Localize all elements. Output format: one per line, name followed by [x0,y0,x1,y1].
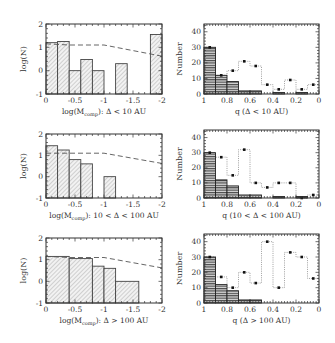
y-tick-label: 10 [191,283,201,292]
data-point [300,88,303,91]
x-tick-label: -1 [100,96,107,105]
x-tick-label: 0.4 [267,96,279,105]
histogram-bar [104,268,116,303]
y-tick-label: 2 [38,20,43,29]
y-tick-label: -1 [36,90,43,99]
data-point [208,46,211,49]
data-point [243,271,246,274]
data-point [312,277,315,280]
histogram-bar [92,266,104,303]
histogram-bar [116,281,139,303]
x-tick-label: -1 [100,305,107,314]
y-tick-label: -1 [36,299,43,308]
x-axis-label: q (Δ < 10 AU) [235,107,288,116]
x-tick-label: 0 [44,200,49,209]
y-tick-label: 2 [38,130,43,139]
x-tick-label: 1 [202,200,207,209]
y-tick-label: 40 [191,27,201,36]
y-tick-label: 30 [191,148,201,157]
x-tick-label: 0 [317,96,322,105]
histogram-bar [81,59,93,94]
y-tick-label: 30 [191,43,201,52]
x-tick-label: 0.2 [290,305,302,314]
chart-panel-row3-right: 10.80.60.40.20010203040Numberq (Δ > 100 … [175,234,322,325]
x-axis-label: q (10 < Δ < 100 AU) [222,211,301,220]
x-tick-label: 0 [317,305,322,314]
x-tick-label: 0 [317,200,322,209]
x-tick-label: 0.4 [267,305,279,314]
data-point [254,182,257,185]
histogram-bar [116,64,128,94]
data-point [243,148,246,151]
y-tick-label: 1 [38,151,43,160]
y-axis-label: Number [175,252,184,286]
y-tick-label: 30 [191,253,201,262]
x-tick-label: 0.8 [221,96,233,105]
filled-histogram-bar [204,47,216,94]
y-tick-label: 1 [38,43,43,52]
x-tick-label: -0.5 [68,305,83,314]
filled-histogram-bar [216,285,228,303]
filled-histogram-bar [216,75,228,94]
y-axis-label: log(N) [19,258,28,284]
data-point [277,286,280,289]
data-point [277,88,280,91]
x-tick-label: -0.5 [68,96,83,105]
x-tick-label: 0.6 [244,96,256,105]
y-tick-label: 0 [38,66,43,75]
data-point [300,256,303,259]
y-axis-label: log(N) [19,153,28,179]
histogram-bar [104,177,116,198]
histogram-bar [58,150,70,198]
x-tick-label: -1.5 [126,200,141,209]
x-tick-label: 0.6 [244,305,256,314]
x-tick-label: -0.5 [68,200,83,209]
y-tick-label: 40 [191,237,201,246]
chart-panel-row1-left: 0-0.5-1-1.5-2-1012log(N)log(Mcomp): Δ < … [19,20,166,119]
y-tick-label: 0 [196,194,201,203]
x-axis-label: log(Mcomp): Δ > 100 AU [60,316,149,327]
data-point [231,286,234,289]
chart-panel-row1-right: 10.80.60.40.20010203040Numberq (Δ < 10 A… [175,24,322,116]
y-tick-label: 20 [191,268,201,277]
x-tick-label: 0.4 [267,200,279,209]
data-point [231,174,234,177]
x-axis-label: log(Mcomp): Δ < 10 AU [62,107,146,118]
filled-histogram-bar [204,153,216,198]
histogram-bar [69,160,81,198]
x-tick-label: -1.5 [126,96,141,105]
x-tick-label: 0.2 [290,96,302,105]
histogram-bar [150,35,162,95]
y-tick-label: 10 [191,178,201,187]
x-axis-label: log(Mcomp): 10 < Δ < 100 AU [49,211,158,222]
data-point [220,156,223,159]
data-point [289,251,292,254]
data-point [289,182,292,185]
data-point [266,240,269,243]
data-point [208,151,211,154]
x-axis-label: q (Δ > 100 AU) [233,316,291,325]
chart-panel-row2-left: 0-0.5-1-1.5-2-1012log(N)log(Mcomp): 10 <… [19,130,166,223]
y-axis-label: log(N) [19,46,28,72]
y-tick-label: 20 [191,163,201,172]
data-point [243,60,246,63]
x-tick-label: -2 [158,305,166,314]
y-tick-label: -1 [36,194,43,203]
histogram-bar [81,164,93,198]
y-tick-label: 20 [191,58,201,67]
y-tick-label: 10 [191,74,201,83]
filled-histogram-bar [204,257,216,303]
x-tick-label: 0 [44,96,49,105]
x-tick-label: -2 [158,200,166,209]
x-tick-label: -1 [100,200,107,209]
chart-panel-row2-right: 10.80.60.40.20010203040Numberq (10 < Δ <… [175,130,322,220]
x-tick-label: -2 [158,96,166,105]
data-point [277,182,280,185]
x-tick-label: 0.6 [244,200,256,209]
data-point [289,79,292,82]
y-tick-label: 1 [38,255,43,264]
x-tick-label: -1.5 [126,305,141,314]
y-tick-label: 0 [196,299,201,308]
x-tick-label: 0.8 [221,305,233,314]
histogram-bar [46,256,69,303]
